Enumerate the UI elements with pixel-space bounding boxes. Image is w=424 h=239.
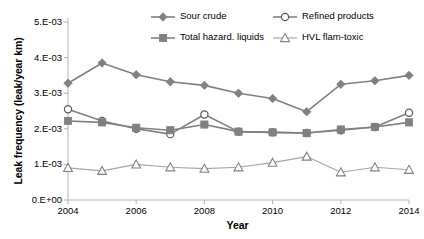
data-point-marker (371, 163, 380, 171)
data-point-marker (302, 152, 311, 160)
data-point-marker (201, 121, 208, 128)
legend-marker-icon (150, 32, 176, 42)
data-point-marker (98, 59, 106, 67)
data-point-marker (337, 126, 344, 133)
series-line (68, 63, 409, 112)
legend-marker-icon (150, 11, 176, 21)
x-tick-label: 2014 (386, 205, 424, 216)
data-point-marker (371, 123, 378, 130)
data-point-marker (371, 77, 379, 85)
x-tick-label: 2012 (318, 205, 364, 216)
series-sour-crude (64, 59, 413, 116)
legend-item-label: HVL flam-toxic (302, 31, 363, 42)
legend-item-sour-crude[interactable]: Sour crude (150, 10, 226, 21)
legend-marker-icon (272, 11, 298, 21)
data-point-marker (159, 12, 167, 20)
data-point-marker (235, 128, 242, 135)
series-hvl-flam-toxic (64, 152, 414, 176)
x-tick-label: 2006 (113, 205, 159, 216)
axis-lines (68, 18, 409, 200)
y-tick-label: 3.E-03 (14, 87, 62, 98)
data-point-marker (99, 119, 106, 126)
legend-item-refined-products[interactable]: Refined products (272, 10, 374, 21)
legend-item-total-hazard-liquids[interactable]: Total hazard. liquids (150, 31, 264, 42)
y-tick-label: 4.E-03 (14, 52, 62, 63)
x-tick-label: 2008 (181, 205, 227, 216)
legend-item-label: Refined products (302, 10, 374, 21)
data-point-marker (201, 111, 208, 118)
data-point-marker (234, 89, 242, 97)
data-point-marker (269, 129, 276, 136)
data-point-marker (268, 94, 276, 102)
legend-item-hvl-flam-toxic[interactable]: HVL flam-toxic (272, 31, 363, 42)
data-point-marker (405, 71, 413, 79)
legend-item-label: Sour crude (180, 10, 226, 21)
legend-item-label: Total hazard. liquids (180, 31, 264, 42)
data-point-marker (200, 81, 208, 89)
data-point-marker (64, 79, 72, 87)
data-point-marker (281, 13, 288, 20)
data-point-marker (64, 117, 71, 124)
data-point-marker (64, 106, 71, 113)
data-point-marker (405, 119, 412, 126)
data-point-marker (132, 70, 140, 78)
x-tick-label: 2004 (45, 205, 91, 216)
y-tick-label: 2.E-03 (14, 123, 62, 134)
data-point-marker (405, 109, 412, 116)
y-tick-label: 1.E-03 (14, 158, 62, 169)
x-tick-label: 2010 (250, 205, 296, 216)
series-total-hazard-liquids (64, 117, 412, 136)
legend-marker-icon (272, 32, 298, 42)
data-point-marker (132, 160, 141, 168)
data-point-marker (159, 34, 166, 41)
data-point-marker (166, 78, 174, 86)
data-point-marker (303, 129, 310, 136)
y-tick-label: 5.E-03 (14, 16, 62, 27)
y-tick-label: 0.E+00 (14, 194, 62, 205)
data-point-marker (167, 127, 174, 134)
data-point-marker (133, 124, 140, 131)
x-axis-title: Year (60, 219, 415, 231)
